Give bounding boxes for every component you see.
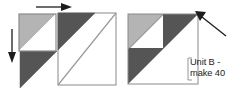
unit-label-line-2: make 40: [190, 68, 242, 79]
left-diagram-exploded-view: [8, 3, 116, 88]
quilt-block-diagram: [0, 0, 242, 93]
arrow-down-icon: [8, 29, 16, 63]
unit-label-line-1: Unit B -: [190, 57, 242, 68]
small-half-square-triangle-unit: [19, 14, 56, 51]
unit-label: Unit B - make 40: [190, 57, 242, 78]
arrow-diagonal-up-left-icon: [195, 11, 226, 36]
arrow-diagonal-shaft: [202, 17, 226, 36]
figure-root: Unit B - make 40: [0, 0, 242, 93]
arrow-right-icon: [36, 3, 72, 11]
arrow-right-head: [61, 3, 72, 11]
arrow-down-head: [8, 52, 16, 63]
dark-triangle-bottom-left: [20, 51, 57, 88]
